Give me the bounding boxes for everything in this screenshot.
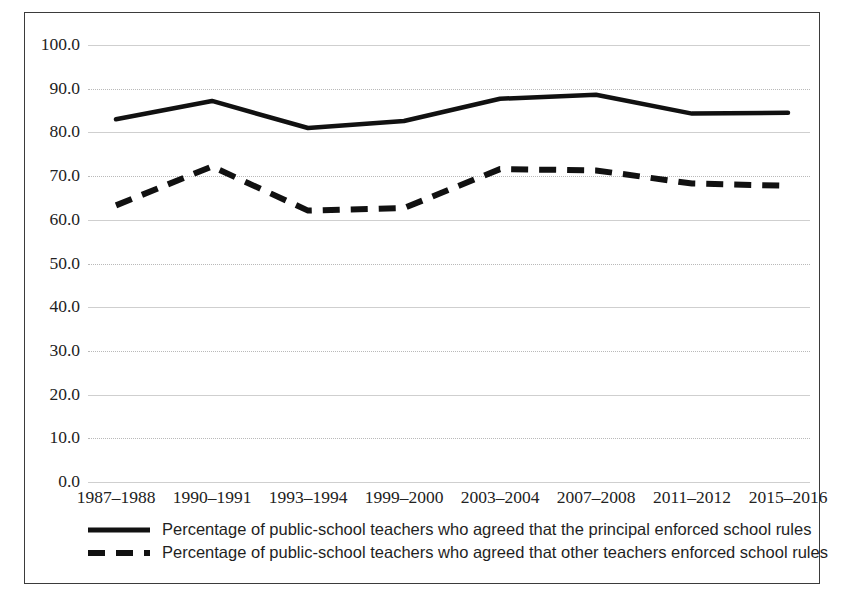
legend-item[interactable]: Percentage of public-school teachers who… [88, 518, 788, 541]
x-axis-tick-label: 1993–1994 [269, 487, 348, 507]
x-axis-tick-label: 2015–2016 [749, 487, 828, 507]
x-axis-tick-label: 1987–1988 [77, 487, 156, 507]
y-axis-tick-label: 100.0 [16, 36, 80, 54]
y-axis-tick-label: 60.0 [16, 211, 80, 229]
y-axis-tick-label: 10.0 [16, 429, 80, 447]
legend-label: Percentage of public-school teachers who… [162, 520, 811, 539]
solid-line-icon [88, 524, 150, 536]
x-axis-tick-label: 2007–2008 [557, 487, 636, 507]
x-axis-tick-label: 2003–2004 [461, 487, 540, 507]
x-axis-tick-label: 1990–1991 [173, 487, 252, 507]
y-axis-tick-label: 90.0 [16, 80, 80, 98]
series-line-2 [116, 166, 788, 210]
y-axis-tick-labels: 100.090.080.070.060.050.040.030.020.010.… [16, 45, 80, 482]
legend-label: Percentage of public-school teachers who… [162, 543, 828, 562]
y-axis-tick-label: 70.0 [16, 167, 80, 185]
dashed-line-icon [88, 547, 150, 559]
chart-legend: Percentage of public-school teachers who… [88, 518, 788, 564]
x-axis-tick-label: 1999–2000 [365, 487, 444, 507]
chart-figure: 100.090.080.070.060.050.040.030.020.010.… [0, 0, 845, 602]
y-axis-tick-label: 0.0 [16, 473, 80, 491]
plot-area [88, 45, 810, 482]
y-axis-tick-label: 30.0 [16, 342, 80, 360]
x-axis-tick-label: 2011–2012 [653, 487, 731, 507]
series-line-1 [116, 95, 788, 128]
series-lines [88, 45, 810, 482]
legend-item[interactable]: Percentage of public-school teachers who… [88, 541, 788, 564]
y-axis-tick-label: 50.0 [16, 255, 80, 273]
y-axis-tick-label: 40.0 [16, 298, 80, 316]
gridline [88, 482, 810, 483]
y-axis-tick-label: 80.0 [16, 123, 80, 141]
x-axis-tick-labels: 1987–19881990–19911993–19941999–20002003… [88, 487, 810, 513]
y-axis-tick-label: 20.0 [16, 386, 80, 404]
